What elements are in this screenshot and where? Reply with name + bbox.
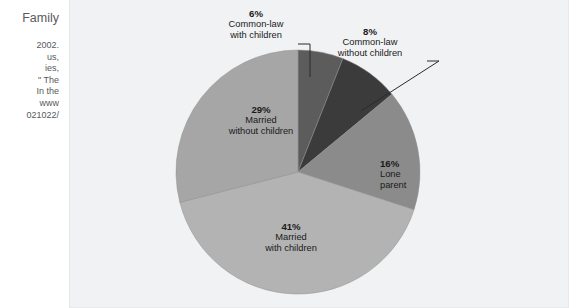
pie-label-percent: 8% [316,26,424,37]
pie-label-percent: 16% [380,158,450,169]
pie-label-text-line2: with children [206,30,306,41]
pie-label-percent: 29% [198,104,324,115]
pie-label-text-line1: Married [198,115,324,126]
caption-line: 021022/ [0,110,59,122]
caption-line: www [0,98,59,110]
caption-line: 2002. [0,40,59,52]
caption-line: ies, [0,63,59,75]
caption-source-note: 2002. us, ies, " The In the www 021022/ [0,25,59,121]
pie-label-lone-parent: 16% Lone parent [380,158,450,192]
caption-column: Family 2002. us, ies, " The In the www 0… [0,0,62,308]
pie-label-text-line1: Married [236,232,346,243]
pie-label-common-law-with-children: 6% Common-law with children [206,8,306,42]
caption-line: In the [0,86,59,98]
screenshot-root: Family 2002. us, ies, " The In the www 0… [0,0,569,308]
pie-label-married-without-children: 29% Married without children [198,104,324,138]
pie-label-percent: 6% [206,8,306,19]
pie-label-percent: 41% [236,221,346,232]
caption-inner: Family 2002. us, ies, " The In the www 0… [0,0,59,121]
pie-label-text-line2: without children [316,48,424,59]
pie-label-married-with-children: 41% Married with children [236,221,346,255]
pie-label-text-line1: Lone [380,169,450,180]
caption-line: us, [0,52,59,64]
pie-label-text-line2: parent [380,180,450,191]
pie-label-text-line1: Common-law [316,37,424,48]
pie-label-text-line1: Common-law [206,19,306,30]
chart-panel: 6% Common-law with children 8% Common-la… [70,0,569,308]
pie-label-text-line2: without children [198,126,324,137]
caption-line: " The [0,75,59,87]
caption-heading: Family [0,0,59,25]
pie-label-text-line2: with children [236,243,346,254]
pie-label-common-law-without-children: 8% Common-law without children [316,26,424,60]
